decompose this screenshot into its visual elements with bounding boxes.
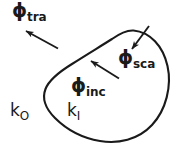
incident-subscript: inc — [86, 85, 106, 99]
scattered-field-label: ϕsca — [118, 48, 155, 67]
inside-wavenumber-label: kI — [67, 102, 80, 119]
outside-wavenumber-label: kO — [10, 102, 29, 119]
scattering-diagram: ϕtra ϕsca ϕinc kO kI — [0, 0, 177, 149]
scattered-arrow — [132, 26, 149, 49]
outside-subscript: O — [20, 109, 29, 123]
phi-symbol: ϕ — [12, 0, 27, 21]
inside-subscript: I — [77, 109, 80, 123]
phi-symbol: ϕ — [118, 46, 133, 68]
k-symbol: k — [10, 100, 20, 120]
scattered-subscript: sca — [133, 57, 155, 71]
incident-field-label: ϕinc — [71, 76, 106, 95]
phi-symbol: ϕ — [71, 74, 86, 96]
transmitted-arrow — [26, 31, 58, 49]
k-symbol: k — [67, 100, 77, 120]
transmitted-subscript: tra — [27, 10, 47, 24]
transmitted-field-label: ϕtra — [12, 1, 47, 20]
